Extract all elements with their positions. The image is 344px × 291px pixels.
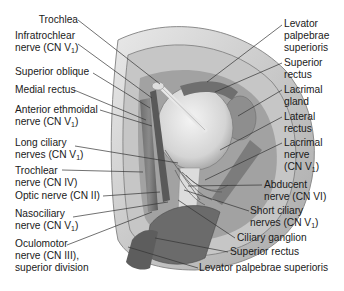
label-short-ciliary-nerves: Short ciliary nerves (CN V1) (250, 205, 318, 229)
label-oculomotor-nerve: Oculomotor nerve (CN III), superior divi… (15, 238, 89, 274)
label-infratrochlear-nerve: Infratrochlear nerve (CN V1) (15, 30, 78, 54)
label-superior-rectus-bottom: Superior rectus (230, 246, 299, 258)
label-ciliary-ganglion: Ciliary ganglion (237, 232, 307, 244)
label-lacrimal-gland: Lacrimal gland (284, 84, 323, 108)
label-anterior-ethmoidal-nerve: Anterior ethmoidal nerve (CN V1) (15, 104, 98, 128)
label-lacrimal-nerve: Lacrimal nerve (CN V1) (284, 137, 323, 173)
label-optic-nerve: Optic nerve (CN II) (15, 190, 100, 202)
label-nasociliary-nerve: Nasociliary nerve (CN V1) (15, 208, 78, 232)
label-superior-oblique: Superior oblique (15, 66, 89, 78)
label-superior-rectus-top: Superior rectus (284, 57, 323, 81)
label-long-ciliary-nerves: Long ciliary nerves (CN V1) (15, 137, 83, 161)
orbit-anatomy-figure: Trochlea Infratrochlear nerve (CN V1) Su… (0, 0, 344, 291)
eyeball-shape (157, 86, 233, 170)
label-abducent-nerve: Abducent nerve (CN VI) (264, 179, 326, 203)
label-trochlea: Trochlea (30, 14, 78, 26)
label-lateral-rectus: Lateral rectus (284, 111, 315, 135)
label-levator-palpebrae-superioris-top: Levator palpebrae superioris (284, 18, 329, 54)
label-levator-palpebrae-superioris-bottom: Levator palpebrae superioris (199, 262, 328, 274)
label-medial-rectus: Medial rectus (15, 84, 76, 96)
label-trochlear-nerve: Trochlear nerve (CN IV) (15, 165, 77, 189)
